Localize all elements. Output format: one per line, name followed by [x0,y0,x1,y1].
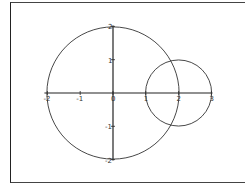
y-tick-label: 2 [108,23,112,31]
x-tick-label: 1 [144,95,148,103]
x-tick-label: 2 [177,95,181,103]
y-tick-label: -1 [105,123,112,131]
axes [44,25,212,160]
tick-labels: -2-1012321-1-2 [43,23,213,164]
y-tick-label: 1 [108,57,112,65]
circle-plot: -2-1012321-1-2 [0,0,245,186]
x-tick-label: -2 [43,95,50,103]
x-tick-label: -1 [76,95,83,103]
x-tick-label: 0 [111,95,115,103]
x-tick-label: 3 [209,95,213,103]
y-tick-label: -2 [105,157,112,165]
